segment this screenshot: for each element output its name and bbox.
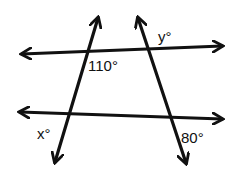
angle-80-label: 80° (181, 130, 204, 145)
angle-y-label: y° (158, 29, 172, 44)
top-line (22, 46, 222, 54)
left-transversal (55, 18, 98, 162)
angle-110-label: 110° (88, 58, 118, 73)
geometry-diagram (0, 0, 239, 181)
angle-x-label: x° (37, 126, 51, 141)
bottom-line (20, 112, 222, 119)
